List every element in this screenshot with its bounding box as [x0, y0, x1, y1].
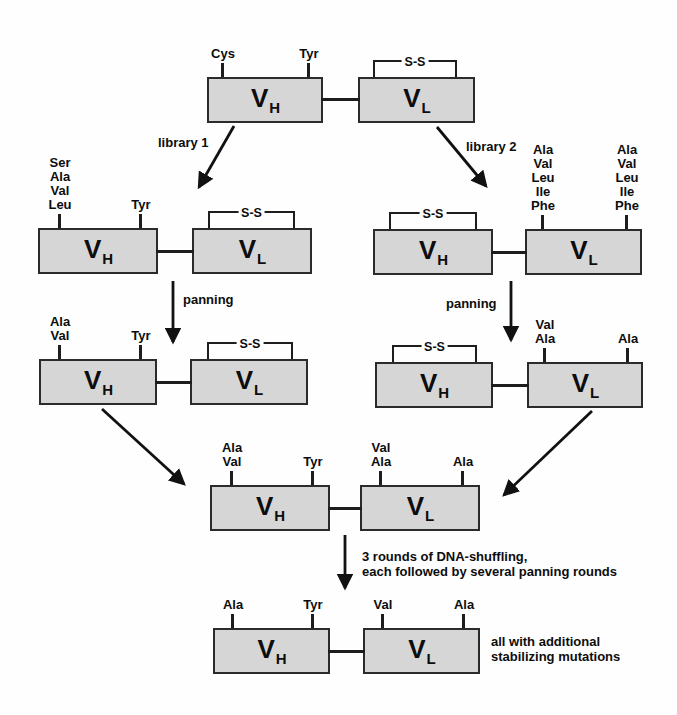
vh-label: VH — [84, 367, 112, 397]
library1-label: library 1 — [158, 135, 209, 150]
merge-right-arrow — [504, 411, 592, 495]
vh-box-lib1: VH — [38, 228, 158, 274]
mutation-tick — [462, 614, 465, 628]
vh-label: VH — [84, 236, 112, 266]
mutation-label: Cys — [211, 47, 235, 61]
vh-box-top: VH — [207, 77, 323, 123]
mutation-tick — [379, 471, 382, 485]
vh-label: VH — [420, 370, 448, 400]
mutation-tick — [139, 214, 142, 228]
disulfide-bridge: S-S — [208, 211, 295, 228]
vl-box-pan1: VL — [190, 359, 308, 405]
vh-label: VH — [419, 237, 447, 267]
disulfide-bridge: S-S — [392, 345, 477, 362]
vh-vl-linker — [156, 250, 194, 253]
disulfide-bridge: S-S — [389, 212, 477, 229]
antibody-engineering-diagram: VH VL S-S Cys Tyr library 1 library 2 VH… — [0, 0, 677, 715]
mutation-tick — [311, 471, 314, 485]
vh-vl-linker — [321, 98, 360, 101]
mutation-label: Ser Ala Val Leu — [48, 156, 71, 212]
vl-label: VL — [572, 370, 599, 400]
vl-label: VL — [239, 236, 266, 266]
mutation-label: Val Ala — [535, 318, 555, 346]
vl-box-merged: VL — [360, 485, 480, 531]
mutation-label: Ala Val — [222, 441, 242, 469]
mutation-label: Ala — [454, 598, 474, 612]
vh-vl-linker — [328, 507, 362, 510]
panning-left-label: panning — [183, 292, 234, 307]
mutation-label: Ala Val — [50, 315, 70, 343]
stabilizing-note: all with additional stabilizing mutation… — [491, 634, 620, 664]
vl-label: VL — [403, 85, 430, 115]
vh-vl-linker — [491, 384, 529, 387]
mutation-tick — [139, 345, 142, 359]
vl-label: VL — [408, 636, 435, 666]
vh-label: VH — [257, 636, 285, 666]
mutation-tick — [461, 471, 464, 485]
mutation-label: Ala — [453, 455, 473, 469]
vl-label: VL — [570, 237, 597, 267]
mutation-tick — [541, 215, 544, 229]
mutation-label: Tyr — [299, 47, 318, 61]
panning-right-label: panning — [446, 296, 497, 311]
shuffling-note: 3 rounds of DNA-shuffling, each followed… — [362, 549, 617, 579]
mutation-label: Tyr — [131, 198, 150, 212]
mutation-label: Val Ala — [371, 441, 391, 469]
merge-left-arrow — [102, 409, 184, 484]
arrow-layer — [0, 0, 677, 715]
mutation-label: Tyr — [303, 455, 322, 469]
mutation-tick — [543, 348, 546, 362]
mutation-label: Ala — [223, 598, 243, 612]
mutation-tick — [58, 345, 61, 359]
mutation-tick — [625, 215, 628, 229]
vh-box-final: VH — [213, 628, 330, 674]
vl-label: VL — [407, 493, 434, 523]
disulfide-bridge: S-S — [207, 342, 293, 359]
vh-box-pan1: VH — [39, 359, 157, 405]
mutation-tick — [626, 348, 629, 362]
vh-label: VH — [256, 493, 284, 523]
library2-label: library 2 — [466, 139, 517, 154]
disulfide-label: S-S — [238, 206, 265, 220]
mutation-label: Ala Val Leu Ile Phe — [615, 143, 639, 213]
vl-label: VL — [236, 367, 263, 397]
mutation-tick — [311, 614, 314, 628]
mutation-label: Tyr — [131, 329, 150, 343]
mutation-tick — [307, 63, 310, 77]
vh-vl-linker — [491, 251, 527, 254]
disulfide-label: S-S — [420, 207, 447, 221]
disulfide-bridge: S-S — [373, 60, 457, 77]
mutation-label: Ala Val Leu Ile Phe — [531, 143, 555, 213]
disulfide-label: S-S — [237, 337, 264, 351]
mutation-label: Tyr — [303, 598, 322, 612]
vh-vl-linker — [328, 650, 365, 653]
vh-vl-linker — [155, 381, 192, 384]
vh-box-lib2: VH — [373, 229, 493, 275]
mutation-tick — [381, 614, 384, 628]
library2-arrow — [437, 127, 486, 186]
disulfide-label: S-S — [402, 55, 429, 69]
vl-box-lib2: VL — [525, 229, 642, 275]
vh-box-pan2: VH — [375, 362, 493, 408]
vl-box-top: VL — [358, 77, 475, 123]
mutation-tick — [58, 214, 61, 228]
mutation-label: Val — [374, 598, 393, 612]
mutation-tick — [230, 471, 233, 485]
vl-box-final: VL — [363, 628, 480, 674]
mutation-tick — [231, 614, 234, 628]
vh-label: VH — [251, 85, 279, 115]
mutation-tick — [221, 63, 224, 77]
vl-box-pan2: VL — [527, 362, 643, 408]
vh-box-merged: VH — [210, 485, 330, 531]
mutation-label: Ala — [618, 332, 638, 346]
disulfide-label: S-S — [421, 340, 448, 354]
vl-box-lib1: VL — [192, 228, 312, 274]
